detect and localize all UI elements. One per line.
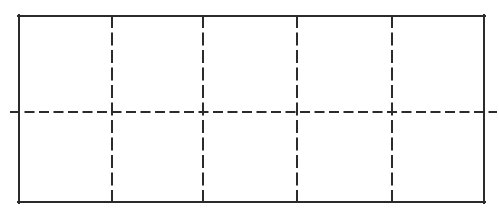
diagram-svg [0,0,499,217]
rectangle-interior [18,15,485,203]
figure-canvas [0,0,499,217]
